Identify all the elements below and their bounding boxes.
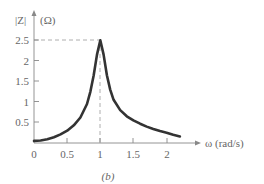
y-tick-label: 1 [24, 96, 30, 108]
x-tick-label: 1 [97, 148, 103, 160]
x-tick-label: 2 [164, 148, 170, 160]
impedance-chart: 2.5 2 1.5 1 0.5 0 0.5 1 1.5 2 |Z| (Ω) ω … [0, 0, 264, 184]
impedance-curve [34, 40, 180, 141]
y-tick-label: 2 [24, 55, 30, 67]
x-tick-label: 0 [31, 148, 37, 160]
x-ticks [67, 138, 167, 143]
figure-caption: (b) [102, 170, 115, 183]
y-axis-arrow-icon [32, 10, 37, 16]
y-axis-title: |Z| [15, 14, 26, 26]
x-axis-title: ω (rad/s) [205, 137, 244, 150]
x-axis-arrow-icon [195, 141, 201, 146]
y-tick-label: 2.5 [15, 34, 29, 46]
y-axis-unit: (Ω) [40, 14, 56, 27]
x-tick-label: 1.5 [126, 148, 140, 160]
y-ticks [34, 40, 39, 122]
y-tick-label: 1.5 [15, 75, 29, 87]
y-tick-label: 0.5 [15, 116, 29, 128]
x-tick-label: 0.5 [60, 148, 74, 160]
